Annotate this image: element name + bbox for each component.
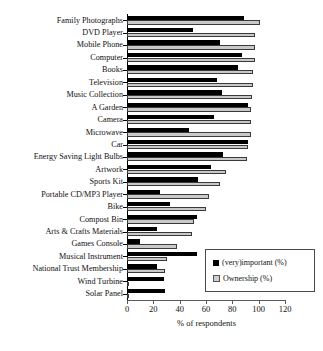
bar-ownership — [127, 232, 192, 236]
category-label: Compost Bin — [0, 215, 123, 224]
category-label: Television — [0, 78, 123, 87]
category-label: Artwork — [0, 165, 123, 174]
chart-row: Television — [0, 76, 323, 88]
bar-important — [127, 239, 140, 243]
bar-ownership — [127, 282, 129, 286]
bar-ownership — [127, 95, 252, 99]
legend-label-important: (very)important (%) — [222, 258, 287, 267]
category-label: Family Photographs — [0, 16, 123, 25]
chart-row: Arts & Crafts Materials — [0, 225, 323, 237]
bar-important — [127, 277, 164, 281]
bar-important — [127, 53, 242, 57]
bar-important — [127, 16, 244, 20]
x-tick-label-100: 100 — [247, 304, 271, 314]
bar-ownership — [127, 194, 209, 198]
chart-row: Camera — [0, 113, 323, 125]
chart-row: Compost Bin — [0, 213, 323, 225]
bar-ownership — [127, 58, 255, 62]
bar-important — [127, 165, 211, 169]
bar-important — [127, 28, 193, 32]
chart-row: Books — [0, 64, 323, 76]
bar-ownership — [127, 244, 177, 248]
category-label: Mobile Phone — [0, 40, 123, 49]
bar-ownership — [127, 257, 167, 261]
bar-chart: 020406080100120 Family PhotographsDVD Pl… — [0, 0, 323, 351]
legend-label-ownership: Ownership (%) — [223, 274, 272, 283]
category-label: Portable CD/MP3 Player — [0, 190, 123, 199]
category-label: Microwave — [0, 128, 123, 137]
category-label: Music Collection — [0, 90, 123, 99]
bar-important — [127, 103, 248, 107]
bar-ownership — [127, 157, 247, 161]
bar-ownership — [127, 182, 220, 186]
chart-row: Car — [0, 138, 323, 150]
bar-ownership — [127, 145, 248, 149]
x-tick-label-40: 40 — [168, 304, 192, 314]
category-label: Energy Saving Light Bulbs — [0, 152, 123, 161]
bar-ownership — [127, 294, 129, 298]
category-label: Car — [0, 140, 123, 149]
chart-row: Bike — [0, 201, 323, 213]
category-label: Wind Turbine — [0, 277, 123, 286]
chart-row: DVD Player — [0, 26, 323, 38]
bar-important — [127, 90, 222, 94]
chart-row: Computer — [0, 51, 323, 63]
bar-important — [127, 202, 170, 206]
bar-ownership — [127, 107, 251, 111]
bar-important — [127, 227, 157, 231]
bar-ownership — [127, 132, 251, 136]
bar-ownership — [127, 120, 251, 124]
category-label: Solar Panel — [0, 289, 123, 298]
category-label: DVD Player — [0, 28, 123, 37]
bar-important — [127, 40, 220, 44]
category-label: Computer — [0, 53, 123, 62]
bar-important — [127, 215, 197, 219]
category-label: Games Console — [0, 239, 123, 248]
bar-important — [127, 115, 214, 119]
bar-important — [127, 140, 248, 144]
bar-important — [127, 128, 189, 132]
bar-important — [127, 65, 238, 69]
bar-important — [127, 252, 197, 256]
chart-row: A Garden — [0, 101, 323, 113]
x-tick-label-20: 20 — [141, 304, 165, 314]
legend-swatch-gray-square — [213, 275, 220, 282]
bar-important — [127, 78, 217, 82]
chart-row: Sports Kit — [0, 176, 323, 188]
chart-row: Music Collection — [0, 89, 323, 101]
x-tick-label-0: 0 — [115, 304, 139, 314]
chart-row: Artwork — [0, 163, 323, 175]
category-label: Bike — [0, 202, 123, 211]
category-label: Books — [0, 65, 123, 74]
legend: (very)important (%) Ownership (%) — [205, 249, 315, 292]
bar-important — [127, 190, 160, 194]
chart-row: Energy Saving Light Bulbs — [0, 151, 323, 163]
category-label: A Garden — [0, 103, 123, 112]
bar-ownership — [127, 20, 260, 24]
bar-ownership — [127, 207, 206, 211]
category-label: Sports Kit — [0, 177, 123, 186]
legend-swatch-black-square — [213, 260, 219, 266]
x-tick-label-80: 80 — [220, 304, 244, 314]
bar-ownership — [127, 170, 226, 174]
chart-row: Family Photographs — [0, 14, 323, 26]
x-axis-title: % of respondents — [127, 318, 286, 328]
category-label: Arts & Crafts Materials — [0, 227, 123, 236]
category-label: Camera — [0, 115, 123, 124]
chart-row: Microwave — [0, 126, 323, 138]
caption-fragment — [8, 341, 315, 350]
chart-row: Mobile Phone — [0, 39, 323, 51]
bar-important — [127, 264, 157, 268]
bar-important — [127, 152, 223, 156]
bar-ownership — [127, 45, 255, 49]
bar-ownership — [127, 70, 253, 74]
bar-important — [127, 177, 198, 181]
bar-ownership — [127, 219, 194, 223]
x-tick-label-120: 120 — [273, 304, 297, 314]
category-label: Musical Instrument — [0, 252, 123, 261]
x-tick-label-60: 60 — [194, 304, 218, 314]
bar-important — [127, 289, 165, 293]
bar-ownership — [127, 83, 253, 87]
legend-item-important: (very)important (%) — [213, 258, 287, 268]
category-label: National Trust Membership — [0, 264, 123, 273]
